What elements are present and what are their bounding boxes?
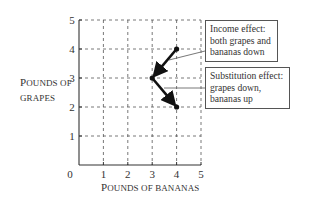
effect-arrows xyxy=(152,49,176,104)
y-tick-label: 5 xyxy=(69,14,75,26)
y-tick-label: 1 xyxy=(69,130,75,142)
x-tick-label: 4 xyxy=(174,168,180,180)
y-axis-title-line1: POUNDS OF xyxy=(20,76,72,88)
data-point xyxy=(174,46,179,51)
x-tick-label: 5 xyxy=(198,168,204,180)
data-point xyxy=(150,75,155,80)
y-tick-label: 4 xyxy=(69,43,75,55)
income-callout-line: Income effect: xyxy=(210,23,273,35)
x-tick-label: 1 xyxy=(101,168,107,180)
data-point xyxy=(174,104,179,109)
axes xyxy=(79,20,201,165)
tick-labels: 01234512345 xyxy=(67,14,204,180)
substitution-callout-line: Substitution effect: xyxy=(210,70,285,82)
income-effect-callout: Income effect: both grapes and bananas d… xyxy=(205,20,278,62)
y-axis-title-line2: GRAPES xyxy=(20,93,55,103)
x-tick-label: 3 xyxy=(149,168,155,180)
x-tick-label: 2 xyxy=(125,168,131,180)
income-effect-arrow xyxy=(155,49,177,75)
x-axis-title: POUNDS OF BANANAS xyxy=(101,181,199,193)
substitution-effect-callout: Substitution effect: grapes down, banana… xyxy=(205,67,290,109)
y-tick-label: 2 xyxy=(69,101,75,113)
income-callout-line: both grapes and xyxy=(210,35,273,47)
gridlines xyxy=(79,20,201,165)
substitution-effect-arrow xyxy=(152,78,174,104)
substitution-callout-line: grapes down, xyxy=(210,82,285,94)
income-callout-line: bananas down xyxy=(210,46,273,58)
x-tick-label: 0 xyxy=(67,168,73,180)
substitution-callout-line: bananas up xyxy=(210,93,285,105)
